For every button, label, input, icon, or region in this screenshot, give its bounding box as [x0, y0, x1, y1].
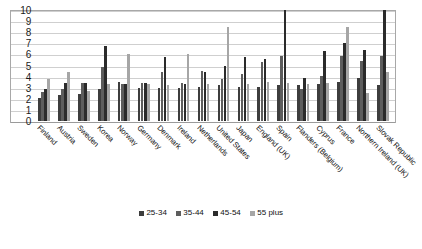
y-axis-tick-label: 3 [26, 84, 31, 94]
y-axis-tick-label: 6 [26, 50, 31, 60]
bar-group [194, 11, 214, 121]
legend-item[interactable]: 55 plus [250, 209, 283, 217]
bar [67, 72, 70, 121]
y-axis: 012345678910 [10, 10, 32, 123]
gridline [11, 122, 395, 123]
bar-group [293, 11, 313, 121]
bar-chart: 012345678910 FinlandAustriaSwedenKoreaNo… [0, 0, 422, 249]
y-axis-tick-label: 1 [26, 106, 31, 116]
y-axis-tick-label: 8 [26, 28, 31, 38]
bar-group [233, 11, 253, 121]
bar-group [74, 11, 94, 121]
y-axis-tick-label: 9 [26, 17, 31, 27]
bar-group [174, 11, 194, 121]
legend-swatch-icon [139, 211, 144, 216]
bar [87, 91, 90, 121]
bar-group [214, 11, 234, 121]
x-axis-category-label: Norway [115, 124, 138, 147]
legend-swatch-icon [213, 211, 218, 216]
bar [386, 72, 389, 121]
bar-group [373, 11, 393, 121]
bar [227, 27, 230, 121]
bar-group [154, 11, 174, 121]
chart-legend: 25-3435-4445-5455 plus [0, 209, 422, 217]
legend-label: 25-34 [146, 209, 166, 217]
legend-label: 55 plus [257, 209, 283, 217]
legend-item[interactable]: 45-54 [213, 209, 241, 217]
bar-group [54, 11, 74, 121]
bar [207, 84, 210, 121]
bar [346, 27, 349, 121]
legend-swatch-icon [250, 211, 255, 216]
bar [247, 84, 250, 121]
bar [47, 79, 50, 121]
bar-group [313, 11, 333, 121]
bar-group [253, 11, 273, 121]
y-axis-tick-label: 5 [26, 62, 31, 72]
bar [307, 84, 310, 121]
bar [366, 93, 369, 121]
y-axis-tick-label: 0 [26, 117, 31, 127]
bar-group [273, 11, 293, 121]
plot-area-frame [10, 10, 396, 123]
bar-group [34, 11, 54, 121]
bar-group [353, 11, 373, 121]
legend-item[interactable]: 35-44 [176, 209, 204, 217]
bar-group [114, 11, 134, 121]
bar [187, 54, 190, 121]
legend-swatch-icon [176, 211, 181, 216]
bar [326, 83, 329, 121]
y-axis-tick-label: 2 [26, 95, 31, 105]
bars-container [34, 11, 394, 121]
legend-label: 45-54 [220, 209, 240, 217]
y-axis-tick-label: 4 [26, 73, 31, 83]
bar [287, 83, 290, 121]
bar [107, 84, 110, 121]
bar-group [333, 11, 353, 121]
bar [127, 54, 130, 121]
x-axis-category-label: Finland [35, 124, 58, 147]
bar [147, 84, 150, 121]
bar-group [134, 11, 154, 121]
legend-label: 35-44 [183, 209, 203, 217]
x-axis-category-label: France [334, 124, 356, 146]
x-axis-labels: FinlandAustriaSwedenKoreaNorwayGermanyDe… [33, 124, 396, 202]
y-axis-tick-label: 7 [26, 39, 31, 49]
x-axis-category-label: Austria [55, 124, 77, 146]
bar [167, 85, 170, 121]
bar-group [94, 11, 114, 121]
bar [267, 82, 270, 121]
legend-item[interactable]: 25-34 [139, 209, 167, 217]
y-axis-tick-label: 10 [20, 6, 31, 16]
